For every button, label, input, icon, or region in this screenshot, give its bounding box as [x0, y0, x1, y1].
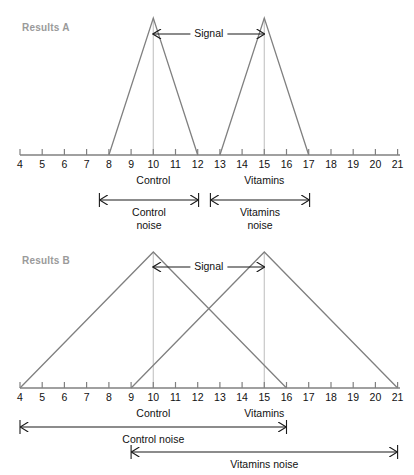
results-b-chart-svg	[0, 240, 414, 475]
tick-label-11: 11	[164, 391, 188, 403]
control-noise-label-line1: Control	[129, 206, 169, 218]
tick-label-14: 14	[230, 391, 254, 403]
tick-label-4: 4	[8, 391, 32, 403]
tick-label-8: 8	[97, 391, 121, 403]
tick-label-20: 20	[363, 391, 387, 403]
control-noise-label-line2: noise	[133, 219, 164, 231]
tick-label-15: 15	[252, 391, 276, 403]
tick-label-7: 7	[75, 158, 99, 170]
tick-label-5: 5	[30, 158, 54, 170]
tick-label-17: 17	[297, 391, 321, 403]
tick-label-20: 20	[363, 158, 387, 170]
vitamins-noise-label-line2: noise	[244, 219, 275, 231]
tick-label-4: 4	[8, 158, 32, 170]
results-b-panel: Results B	[0, 240, 414, 475]
tick-label-18: 18	[319, 391, 343, 403]
tick-label-11: 11	[164, 158, 188, 170]
tick-label-14: 14	[230, 158, 254, 170]
tick-label-19: 19	[341, 391, 365, 403]
vitamins-noise-label-line1: Vitamins	[237, 206, 283, 218]
signal-label: Signal	[190, 260, 227, 272]
tick-label-17: 17	[297, 158, 321, 170]
tick-label-16: 16	[275, 391, 299, 403]
tick-label-13: 13	[208, 158, 232, 170]
tick-label-10: 10	[141, 391, 165, 403]
tick-label-21: 21	[386, 391, 410, 403]
tick-label-9: 9	[119, 391, 143, 403]
control-group-label: Control	[136, 407, 170, 419]
control-noise-label: Control noise	[119, 433, 187, 445]
tick-label-6: 6	[52, 158, 76, 170]
vitamins-group-label: Vitamins	[244, 407, 284, 419]
tick-label-10: 10	[141, 158, 165, 170]
tick-label-12: 12	[186, 391, 210, 403]
x-axis-ticks	[20, 149, 398, 155]
tick-label-12: 12	[186, 158, 210, 170]
tick-label-18: 18	[319, 158, 343, 170]
vitamins-group-label: Vitamins	[244, 174, 284, 186]
tick-label-13: 13	[208, 391, 232, 403]
tick-label-16: 16	[275, 158, 299, 170]
tick-label-9: 9	[119, 158, 143, 170]
results-a-panel: Results A	[0, 0, 414, 240]
x-axis-ticks	[20, 382, 398, 388]
tick-label-6: 6	[52, 391, 76, 403]
tick-label-21: 21	[386, 158, 410, 170]
control-group-label: Control	[136, 174, 170, 186]
signal-label: Signal	[190, 27, 227, 39]
vitamins-noise-label: Vitamins noise	[227, 458, 301, 470]
tick-label-5: 5	[30, 391, 54, 403]
tick-label-15: 15	[252, 158, 276, 170]
tick-label-8: 8	[97, 158, 121, 170]
tick-label-19: 19	[341, 158, 365, 170]
tick-label-7: 7	[75, 391, 99, 403]
